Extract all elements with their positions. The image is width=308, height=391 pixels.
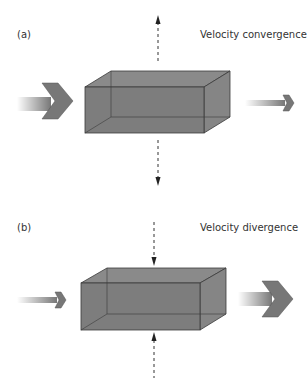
diagram [0, 0, 308, 391]
inflow-arrow-small [17, 292, 66, 308]
dashed-arrow-in-bottom [152, 332, 157, 378]
box-b [81, 268, 226, 330]
box-a [85, 71, 230, 133]
inflow-arrow-large [17, 83, 73, 119]
dashed-arrow-in-top [152, 222, 157, 266]
outflow-arrow-small [245, 95, 294, 111]
panel-a [17, 15, 294, 186]
dashed-arrow-up [156, 15, 161, 63]
outflow-arrow-large [238, 281, 293, 317]
dashed-arrow-down [156, 140, 161, 186]
panel-b [17, 222, 293, 378]
